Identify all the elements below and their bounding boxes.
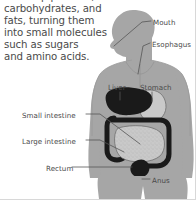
label-small-intestine: Small intestine: [22, 111, 76, 120]
label-stomach: Stomach: [140, 83, 172, 92]
digestive-system-figure: make up proteins, carbohydrates, and fat…: [0, 0, 196, 200]
label-esophagus: Esophagus: [152, 40, 191, 49]
label-large-intestine: Large intestine: [22, 137, 76, 146]
label-liver: Liver: [108, 83, 126, 92]
label-mouth: Mouth: [153, 18, 175, 27]
intro-paragraph: make up proteins, carbohydrates, and fat…: [4, 0, 108, 64]
label-rectum: Rectum: [46, 164, 73, 173]
label-anus: Anus: [152, 176, 170, 185]
